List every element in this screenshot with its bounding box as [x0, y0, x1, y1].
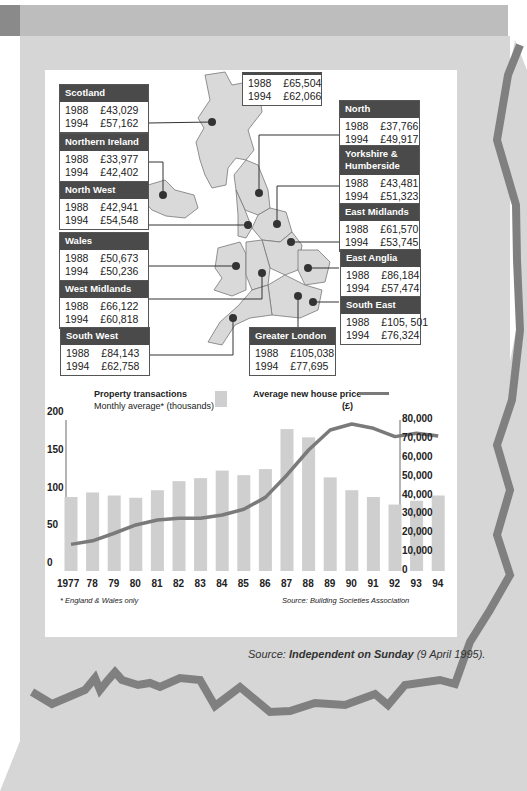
- right-tick-label: 30,000: [402, 507, 433, 518]
- x-tick-label: 78: [87, 578, 98, 589]
- chart-source: Source: Building Societies Association: [282, 596, 409, 605]
- bar: [129, 498, 142, 571]
- right-tick-label: 40,000: [402, 489, 433, 500]
- right-tick-label: 50,000: [402, 470, 433, 481]
- bar: [216, 471, 229, 571]
- bar: [86, 492, 99, 571]
- x-tick-label: 94: [432, 578, 443, 589]
- x-tick-label: 85: [238, 578, 249, 589]
- bar: [65, 497, 78, 571]
- right-tick-label: 70,000: [402, 432, 433, 443]
- bar: [259, 469, 272, 571]
- page-source: Source: Independent on Sunday (9 April 1…: [248, 648, 485, 660]
- source-publication: Independent on Sunday: [289, 648, 414, 660]
- x-tick-label: 91: [367, 578, 378, 589]
- left-tick-label: 200: [47, 406, 64, 417]
- x-tick-label: 93: [411, 578, 422, 589]
- x-tick-label: 92: [389, 578, 400, 589]
- source-prefix: Source:: [248, 648, 289, 660]
- x-tick-label: 88: [303, 578, 314, 589]
- x-tick-label: 82: [173, 578, 184, 589]
- bar: [194, 478, 207, 571]
- bar: [237, 475, 250, 571]
- footnote: * England & Wales only: [60, 596, 138, 605]
- bar: [432, 496, 445, 572]
- right-tick-label: 10,000: [402, 545, 433, 556]
- chart-plot: [0, 0, 527, 791]
- bar: [389, 505, 402, 571]
- left-tick-label: 0: [47, 557, 53, 568]
- bar: [324, 477, 337, 571]
- right-tick-label: 20,000: [402, 526, 433, 537]
- left-tick-label: 100: [47, 482, 64, 493]
- bar: [151, 490, 164, 571]
- x-tick-label: 80: [130, 578, 141, 589]
- x-tick-label: 87: [281, 578, 292, 589]
- x-tick-label: 1977: [57, 578, 79, 589]
- bar: [367, 497, 380, 571]
- bar: [345, 490, 358, 571]
- price-line: [71, 424, 438, 544]
- x-tick-label: 83: [195, 578, 206, 589]
- source-date: (9 April 1995).: [414, 648, 486, 660]
- x-tick-label: 79: [108, 578, 119, 589]
- x-tick-label: 86: [259, 578, 270, 589]
- bar: [173, 481, 186, 571]
- right-tick-label: 0: [402, 564, 408, 575]
- x-tick-label: 90: [346, 578, 357, 589]
- right-tick-label: 80,000: [402, 413, 433, 424]
- x-tick-label: 81: [151, 578, 162, 589]
- left-tick-label: 150: [47, 444, 64, 455]
- left-tick-label: 50: [47, 519, 58, 530]
- bar: [281, 429, 294, 571]
- x-tick-label: 84: [216, 578, 227, 589]
- x-tick-label: 89: [324, 578, 335, 589]
- right-tick-label: 60,000: [402, 451, 433, 462]
